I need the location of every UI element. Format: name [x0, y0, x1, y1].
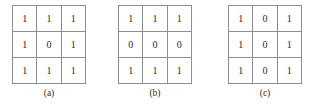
grid-cell: 1	[143, 6, 167, 32]
grid-cell: 1	[13, 6, 37, 32]
grid-cell: 1	[168, 6, 192, 32]
grid-cell: 1	[143, 58, 167, 84]
grid-cell: 1	[229, 58, 253, 84]
panel-a: 1 1 1 1 0 1 1 1 1 (a)	[12, 5, 86, 99]
grid-cell: 0	[119, 32, 143, 58]
grid-a: 1 1 1 1 0 1 1 1 1	[12, 5, 86, 84]
panel-c: 1 0 1 1 0 1 1 0 1 (c)	[228, 5, 302, 99]
grid-cell: 1	[278, 58, 302, 84]
grid-cell: 1	[62, 58, 86, 84]
grid-cell: 0	[253, 58, 277, 84]
grid-cell: 1	[119, 58, 143, 84]
grid-cell: 1	[278, 6, 302, 32]
grid-cell: 0	[253, 32, 277, 58]
grid-c: 1 0 1 1 0 1 1 0 1	[228, 5, 302, 84]
grid-cell: 1	[62, 6, 86, 32]
grid-cell: 1	[37, 58, 61, 84]
grid-cell: 1	[229, 32, 253, 58]
grid-cell: 1	[62, 32, 86, 58]
grid-cell: 0	[37, 32, 61, 58]
grid-cell: 0	[168, 32, 192, 58]
grid-cell: 1	[229, 6, 253, 32]
grid-b: 1 1 1 0 0 0 1 1 1	[118, 5, 192, 84]
grid-cell: 1	[13, 32, 37, 58]
panel-caption-c: (c)	[228, 88, 302, 99]
panel-caption-b: (b)	[118, 88, 192, 99]
grid-cell: 1	[13, 58, 37, 84]
grid-cell: 1	[119, 6, 143, 32]
grid-cell: 0	[253, 6, 277, 32]
grid-cell: 1	[168, 58, 192, 84]
panel-caption-a: (a)	[12, 88, 86, 99]
panel-b: 1 1 1 0 0 0 1 1 1 (b)	[118, 5, 192, 99]
grid-cell: 1	[278, 32, 302, 58]
grid-cell: 1	[37, 6, 61, 32]
grid-cell: 0	[143, 32, 167, 58]
binary-grids-figure: 1 1 1 1 0 1 1 1 1 (a) 1 1 1 0 0 0 1 1 1 …	[0, 0, 314, 108]
